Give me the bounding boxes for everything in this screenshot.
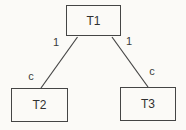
node-t1: T1 (66, 5, 121, 36)
edge-t1-t2-parent-label: 1 (53, 37, 59, 48)
edge-t1-t3-child-label: c (149, 66, 155, 77)
node-t3-label: T3 (141, 97, 155, 111)
node-t2-label: T2 (32, 98, 46, 112)
edge-t1-t3-parent-label: 1 (126, 36, 132, 47)
edge-t1-t2-child-label: c (28, 71, 34, 82)
node-t3: T3 (120, 87, 176, 121)
node-t1-label: T1 (86, 14, 100, 28)
edge-t1-t2 (41, 37, 78, 88)
tree-diagram: T1 T2 T3 1 c 1 c (0, 0, 186, 130)
node-t2: T2 (11, 88, 68, 122)
